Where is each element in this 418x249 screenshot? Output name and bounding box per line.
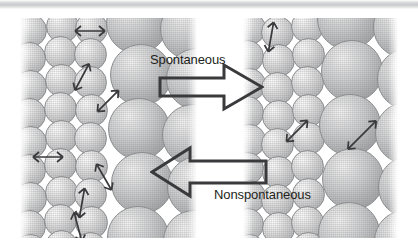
large-sphere <box>375 102 398 164</box>
large-sphere <box>111 152 173 214</box>
large-sphere <box>374 210 398 238</box>
large-sphere <box>322 148 384 210</box>
large-sphere <box>167 156 197 218</box>
large-sphere <box>321 40 383 102</box>
small-sphere <box>262 212 295 238</box>
spontaneous-label: Spontaneous <box>150 52 226 67</box>
large-sphere <box>319 94 381 156</box>
left-panel-before-state <box>20 18 197 238</box>
large-sphere <box>163 210 197 238</box>
figure-root: Spontaneous Nonspontaneous <box>0 0 418 249</box>
nonspontaneous-label: Nonspontaneous <box>214 187 311 202</box>
large-sphere <box>318 202 380 238</box>
large-sphere <box>107 206 169 238</box>
right-panel-after-state <box>243 18 398 238</box>
scan-artifact-band <box>0 0 418 9</box>
large-sphere <box>108 98 170 160</box>
